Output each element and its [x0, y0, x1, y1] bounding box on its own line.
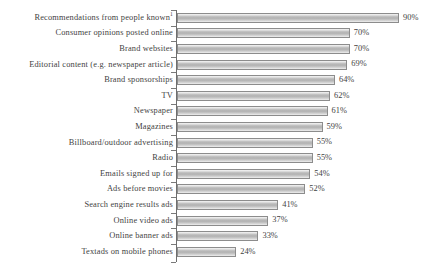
bar: [177, 231, 258, 241]
bar-with-value: 90%: [177, 13, 418, 23]
bar-with-value: 55%: [177, 153, 332, 163]
bar-rows: Recommendations from people known190%Con…: [0, 10, 431, 260]
bar-value-label: 24%: [240, 248, 255, 256]
bar-value-label: 41%: [282, 201, 297, 209]
bar-with-value: 52%: [177, 184, 325, 194]
bar: [177, 106, 328, 116]
category-label: Search engine results ads: [84, 201, 173, 209]
bar-chart: Recommendations from people known190%Con…: [0, 0, 431, 278]
bar-with-value: 24%: [177, 247, 256, 257]
axis-tick: [171, 72, 176, 73]
category-label: Emails signed up for: [100, 170, 173, 178]
bar-with-value: 54%: [177, 169, 330, 179]
bar-value-label: 55%: [317, 138, 332, 146]
bar-row: Magazines59%: [0, 119, 431, 135]
bar-row: Brand sponsorships64%: [0, 72, 431, 88]
bar-row: Search engine results ads41%: [0, 197, 431, 213]
bar-with-value: 33%: [177, 231, 278, 241]
bar: [177, 91, 330, 101]
category-label: Consumer opinions posted online: [55, 29, 173, 37]
axis-tick: [171, 228, 176, 229]
category-label: Online banner ads: [109, 232, 173, 240]
axis-tick: [171, 104, 176, 105]
axis-tick: [171, 197, 176, 198]
axis-tick: [171, 26, 176, 27]
axis-tick: [171, 119, 176, 120]
bar-value-label: 59%: [327, 123, 342, 131]
bar-row: Radio55%: [0, 150, 431, 166]
bar-value-label: 37%: [272, 216, 287, 224]
category-label: Ads before movies: [107, 185, 173, 193]
bar-value-label: 64%: [339, 76, 354, 84]
category-label: Billboard/outdoor advertising: [69, 138, 173, 146]
axis-end-tick: [171, 262, 176, 263]
category-label: Newspaper: [134, 107, 173, 115]
bar: [177, 247, 236, 257]
bar: [177, 169, 310, 179]
category-label: TV: [162, 92, 174, 100]
bar-with-value: 70%: [177, 28, 369, 38]
bar-row: Editorial content (e.g. newspaper articl…: [0, 57, 431, 73]
axis-tick: [171, 213, 176, 214]
axis-tick: [171, 150, 176, 151]
bar-value-label: 55%: [317, 154, 332, 162]
bar-value-label: 70%: [354, 45, 369, 53]
bar-with-value: 61%: [177, 106, 347, 116]
bar-row: TV62%: [0, 88, 431, 104]
bar-with-value: 64%: [177, 75, 354, 85]
bar: [177, 28, 350, 38]
axis-tick: [171, 57, 176, 58]
axis-tick: [171, 244, 176, 245]
bar-with-value: 41%: [177, 200, 298, 210]
category-label: Textads on mobile phones: [81, 248, 173, 256]
bar-value-label: 70%: [354, 29, 369, 37]
bar: [177, 13, 399, 23]
axis-tick: [171, 135, 176, 136]
bar: [177, 153, 313, 163]
bar-row: Textads on mobile phones24%: [0, 244, 431, 260]
bar-with-value: 70%: [177, 44, 369, 54]
bar-value-label: 90%: [403, 14, 418, 22]
bar: [177, 200, 278, 210]
bar: [177, 75, 335, 85]
category-label: Editorial content (e.g. newspaper articl…: [29, 60, 173, 68]
bar: [177, 138, 313, 148]
bar: [177, 122, 323, 132]
axis-tick: [171, 88, 176, 89]
bar-with-value: 69%: [177, 60, 367, 70]
category-label: Magazines: [135, 123, 173, 131]
axis-tick: [171, 166, 176, 167]
bar-with-value: 37%: [177, 216, 288, 226]
category-label: Brand sponsorships: [104, 76, 173, 84]
bar: [177, 44, 350, 54]
plot-area: Recommendations from people known190%Con…: [0, 0, 431, 278]
bar: [177, 60, 347, 70]
category-label: Online video ads: [114, 216, 173, 224]
bar-value-label: 69%: [351, 60, 366, 68]
axis-tick: [171, 182, 176, 183]
bar-with-value: 55%: [177, 138, 332, 148]
bar-row: Brand websites70%: [0, 41, 431, 57]
bar-row: Newspaper61%: [0, 104, 431, 120]
bar-value-label: 62%: [334, 92, 349, 100]
bar-row: Online banner ads33%: [0, 228, 431, 244]
bar-with-value: 59%: [177, 122, 342, 132]
bar-row: Billboard/outdoor advertising55%: [0, 135, 431, 151]
category-label: Recommendations from people known1: [34, 14, 173, 22]
category-label: Radio: [152, 154, 173, 162]
bar-row: Ads before movies52%: [0, 182, 431, 198]
bar-row: Consumer opinions posted online70%: [0, 26, 431, 42]
bar-row: Online video ads37%: [0, 213, 431, 229]
bar-value-label: 54%: [314, 170, 329, 178]
bar-row: Recommendations from people known190%: [0, 10, 431, 26]
bar-with-value: 62%: [177, 91, 349, 101]
bar-value-label: 52%: [309, 185, 324, 193]
footnote-marker: 1: [170, 11, 173, 17]
bar-value-label: 33%: [262, 232, 277, 240]
axis-tick: [171, 41, 176, 42]
category-label: Brand websites: [119, 45, 173, 53]
bar: [177, 184, 305, 194]
bar-row: Emails signed up for54%: [0, 166, 431, 182]
bar-value-label: 61%: [332, 107, 347, 115]
bar: [177, 216, 268, 226]
